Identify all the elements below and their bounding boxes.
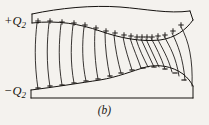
plus-sign-icon <box>163 33 168 38</box>
field-line <box>47 23 50 87</box>
positively-charged-conductor <box>32 6 193 40</box>
plus-sign-icon <box>135 35 140 40</box>
field-line <box>114 35 121 73</box>
field-line <box>35 23 38 89</box>
plus-sign-icon <box>156 34 161 39</box>
bottom-conductor-charge-label: −Q2 <box>4 85 26 100</box>
top-conductor-upper-edge <box>32 6 190 14</box>
field-line <box>130 38 141 68</box>
plus-sign-icon <box>171 29 176 34</box>
field-line <box>59 24 62 85</box>
plus-sign-icon <box>150 35 155 40</box>
top-conductor-charge-label: +Q2 <box>4 15 26 30</box>
top-conductor-lower-edge <box>32 20 193 41</box>
bottom-charge-subscript: 2 <box>21 90 26 100</box>
field-line <box>105 33 110 77</box>
top-charge-subscript: 2 <box>21 20 26 30</box>
plus-sign-icon <box>140 35 145 40</box>
plus-sign-icon <box>129 34 134 39</box>
top-conductor-right-edge <box>190 11 193 20</box>
plus-sign-icon <box>60 20 65 25</box>
plus-sign-icon <box>113 31 118 36</box>
plus-sign-icon <box>48 19 53 24</box>
field-line <box>123 37 132 70</box>
physics-figure: +Q2 −Q2 (b) <box>0 0 209 125</box>
bottom-conductor-upper-edge <box>31 66 193 90</box>
field-line <box>95 30 98 79</box>
positive-charge-marks <box>36 19 184 40</box>
figure-caption: (b) <box>0 104 209 116</box>
plus-sign-icon <box>145 35 150 40</box>
field-line <box>136 39 148 67</box>
field-line <box>83 27 86 81</box>
negatively-charged-conductor <box>31 66 193 98</box>
plus-sign-icon <box>122 33 127 38</box>
field-line <box>71 25 74 83</box>
